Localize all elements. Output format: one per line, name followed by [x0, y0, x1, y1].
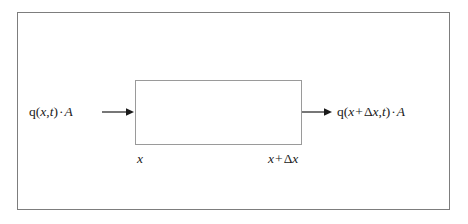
control-volume-box: [135, 80, 302, 145]
outflow-flux-label: q(x+Δx,t)·A: [337, 105, 405, 119]
figure-canvas: q(x,t)·A q(x+Δx,t)·A x x+Δx: [0, 0, 468, 224]
inflow-area-variable: A: [64, 104, 72, 119]
axis-left-x-variable: x: [137, 151, 143, 166]
arrow-right-icon: [102, 106, 135, 118]
axis-right-plus: +: [274, 151, 284, 166]
axis-right-delta-x: x: [292, 151, 298, 166]
arrow-right-icon: [302, 106, 333, 118]
axis-label-x-right: x+Δx: [268, 152, 298, 166]
outflow-delta-symbol: Δ: [364, 104, 373, 119]
axis-label-x-left: x: [137, 152, 143, 166]
outflow-area-variable: A: [397, 104, 405, 119]
inflow-flux-label: q(x,t)·A: [29, 105, 73, 119]
outflow-q-symbol: q: [337, 104, 344, 119]
axis-right-delta: Δ: [284, 151, 293, 166]
inflow-q-symbol: q: [29, 104, 36, 119]
outflow-plus-operator: +: [354, 104, 364, 119]
